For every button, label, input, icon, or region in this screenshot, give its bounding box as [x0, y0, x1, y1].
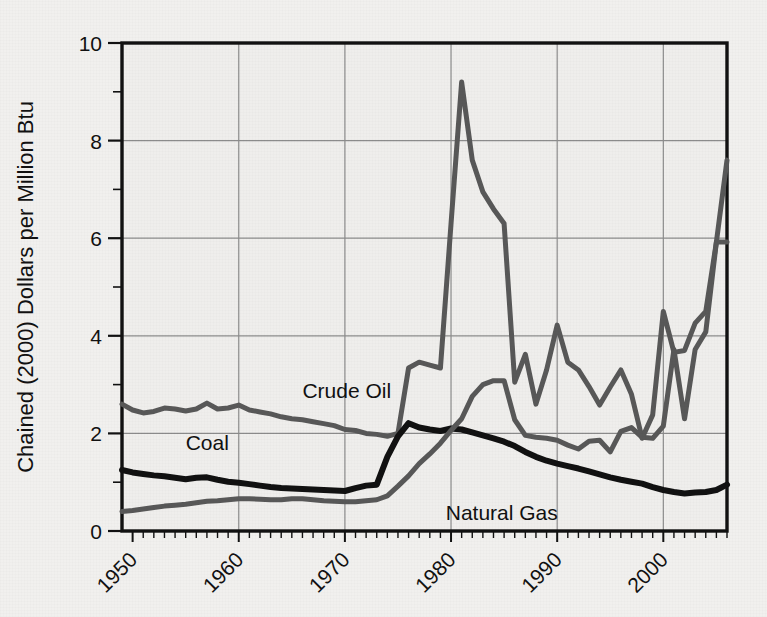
energy-price-line-chart: 0246810 195019601970198019902000 Chained… [0, 0, 767, 617]
y-tick-label: 0 [90, 520, 102, 543]
y-tick-label: 6 [90, 227, 102, 250]
y-tick-label: 4 [90, 325, 102, 348]
series-label-crude-oil: Crude Oil [302, 379, 391, 402]
series-label-coal: Coal [186, 431, 229, 454]
y-tick-label: 10 [79, 32, 102, 55]
y-axis-title: Chained (2000) Dollars per Million Btu [13, 101, 38, 473]
chart-page: 0246810 195019601970198019902000 Chained… [0, 0, 767, 617]
y-tick-label: 8 [90, 130, 102, 153]
series-label-natural-gas: Natural Gas [446, 501, 558, 524]
y-tick-label: 2 [90, 422, 102, 445]
